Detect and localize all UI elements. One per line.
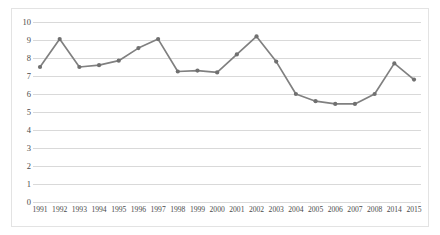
data-point-2005: [313, 99, 317, 103]
data-point-2001: [235, 52, 239, 56]
x-tick-label-2000: 2000: [210, 206, 225, 214]
x-tick-label-1992: 1992: [52, 206, 67, 214]
data-point-2008: [373, 92, 377, 96]
y-tick-label-0: 0: [11, 198, 31, 207]
data-point-1994: [97, 63, 101, 67]
data-point-2002: [254, 34, 258, 38]
y-tick-label-10: 10: [11, 18, 31, 27]
data-point-1999: [195, 69, 199, 73]
x-axis: 1991199219931994199519961997199819992000…: [33, 206, 421, 222]
data-point-2015: [412, 78, 416, 82]
data-point-1992: [58, 37, 62, 41]
data-point-1993: [77, 65, 81, 69]
x-tick-label-2014: 2014: [387, 206, 402, 214]
x-tick-label-1998: 1998: [170, 206, 185, 214]
x-tick-label-1991: 1991: [32, 206, 47, 214]
data-point-1996: [136, 46, 140, 50]
data-point-2004: [294, 92, 298, 96]
x-tick-label-2005: 2005: [308, 206, 323, 214]
x-tick-label-1994: 1994: [91, 206, 106, 214]
x-tick-label-1999: 1999: [190, 206, 205, 214]
data-point-1995: [117, 59, 121, 63]
data-point-1998: [176, 69, 180, 73]
x-tick-label-2008: 2008: [367, 206, 382, 214]
x-tick-label-2002: 2002: [249, 206, 264, 214]
y-tick-label-3: 3: [11, 144, 31, 153]
y-tick-label-7: 7: [11, 72, 31, 81]
data-point-2000: [215, 70, 219, 74]
x-tick-label-2006: 2006: [328, 206, 343, 214]
x-tick-label-2003: 2003: [269, 206, 284, 214]
series-line: [40, 36, 414, 104]
data-point-1997: [156, 37, 160, 41]
y-tick-label-5: 5: [11, 108, 31, 117]
x-tick-label-1997: 1997: [151, 206, 166, 214]
x-tick-label-2007: 2007: [347, 206, 362, 214]
x-tick-label-2004: 2004: [288, 206, 303, 214]
data-point-2003: [274, 60, 278, 64]
y-tick-label-4: 4: [11, 126, 31, 135]
x-tick-label-1993: 1993: [72, 206, 87, 214]
data-point-2006: [333, 102, 337, 106]
y-tick-label-1: 1: [11, 180, 31, 189]
y-tick-label-8: 8: [11, 54, 31, 63]
plot-area: [33, 22, 421, 202]
x-tick-label-2001: 2001: [229, 206, 244, 214]
x-tick-label-1995: 1995: [111, 206, 126, 214]
line-chart-figure: 109876543210 199119921993199419951996199…: [0, 0, 440, 235]
gridline-0: [33, 202, 421, 203]
data-point-1991: [38, 65, 42, 69]
y-tick-label-6: 6: [11, 90, 31, 99]
y-tick-label-9: 9: [11, 36, 31, 45]
series-line-group: [33, 22, 421, 202]
data-point-2007: [353, 102, 357, 106]
y-axis: 109876543210: [11, 22, 31, 202]
y-tick-label-2: 2: [11, 162, 31, 171]
x-tick-label-1996: 1996: [131, 206, 146, 214]
data-point-2014: [392, 61, 396, 65]
x-tick-label-2015: 2015: [406, 206, 421, 214]
